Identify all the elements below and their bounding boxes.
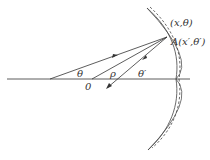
- label-theta-prime: θ′: [138, 68, 147, 79]
- reflected-ray: [107, 37, 167, 88]
- mirror-diagram: (x,θ) A(x′,θ′) θ ρ θ′ 0: [0, 0, 210, 160]
- incident-ray: [50, 37, 167, 79]
- reflected-end-arrow-icon: [106, 83, 112, 89]
- label-point-polar: (x,θ): [170, 17, 193, 28]
- label-point-A: A(x′,θ′): [170, 36, 206, 47]
- label-origin: 0: [85, 81, 92, 92]
- label-theta: θ: [77, 68, 83, 79]
- rho-ray: [92, 37, 167, 79]
- label-rho: ρ: [109, 68, 116, 79]
